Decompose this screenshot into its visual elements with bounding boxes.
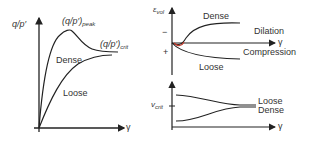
y-axis-label-q-p: q/p′ bbox=[12, 20, 26, 29]
stress-ratio-axes bbox=[34, 18, 124, 132]
x-axis-label-gamma-3: γ bbox=[278, 122, 283, 131]
minus-tick: − bbox=[162, 28, 167, 37]
dense-label: Dense bbox=[56, 56, 82, 65]
loose-vol-label: Loose bbox=[199, 63, 224, 72]
peak-label-sub: peak bbox=[82, 21, 95, 27]
diagram-canvas bbox=[0, 0, 316, 142]
loose-vol-curve bbox=[172, 43, 240, 59]
compression-label: Compression bbox=[243, 48, 296, 57]
plus-tick: + bbox=[163, 48, 168, 57]
dense-volume-curve bbox=[176, 107, 256, 121]
dilation-label: Dilation bbox=[254, 27, 284, 36]
vcrit-sub: crit bbox=[155, 104, 163, 110]
dense-vol-label: Dense bbox=[203, 12, 229, 21]
dense-vol-curve bbox=[172, 23, 240, 45]
y-axis-label-vcrit: vcrit bbox=[151, 101, 163, 110]
evol-sub: vol bbox=[157, 9, 165, 15]
crit-label: (q/p′)crit bbox=[100, 40, 128, 50]
x-axis-label-gamma: γ bbox=[126, 123, 131, 132]
peak-label: (q/p′)peak bbox=[62, 17, 95, 27]
crit-label-main: (q/p′) bbox=[100, 39, 120, 49]
y-axis-label-evol: εvol bbox=[153, 6, 164, 15]
loose-label: Loose bbox=[63, 89, 88, 98]
dense-volume-label: Dense bbox=[258, 106, 284, 115]
peak-label-main: (q/p′) bbox=[62, 16, 82, 26]
x-axis-label-gamma-2: γ bbox=[278, 38, 283, 47]
crit-label-sub: crit bbox=[120, 44, 128, 50]
loose-volume-curve bbox=[176, 95, 256, 105]
